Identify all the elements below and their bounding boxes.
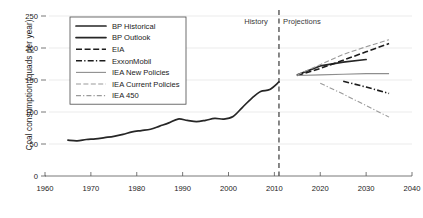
series-line-iea-new-policies: [297, 74, 389, 76]
y-tick-label: 250: [25, 12, 38, 21]
legend-label: EIA: [112, 45, 125, 54]
era-label: Projections: [283, 17, 321, 26]
x-tick-label: 1960: [37, 184, 54, 193]
series-line-exxonmobil: [343, 81, 389, 93]
x-tick-label: 2020: [312, 184, 329, 193]
legend-label: IEA 450: [112, 91, 139, 100]
y-tick-label: 100: [25, 108, 38, 117]
y-tick-label: 200: [25, 44, 38, 53]
plot-svg: 050100150200250 196019701980199020002010…: [0, 0, 423, 218]
y-tick-label: 150: [25, 76, 38, 85]
y-tick-label: 0: [34, 172, 38, 181]
era-annotations: HistoryProjections: [244, 17, 321, 26]
x-tick-label: 1980: [128, 184, 145, 193]
y-axis-ticks: 050100150200250: [25, 12, 46, 181]
legend-label: IEA New Policies: [112, 68, 170, 77]
legend-label: BP Outlook: [112, 33, 150, 42]
era-label: History: [244, 17, 268, 26]
legend-label: IEA Current Policies: [112, 80, 180, 89]
x-tick-label: 1970: [82, 184, 99, 193]
x-tick-label: 2030: [358, 184, 375, 193]
legend: BP HistoricalBP OutlookEIAExxonMobilIEA …: [70, 17, 186, 104]
x-axis-ticks: 196019701980199020002010202020302040: [37, 172, 421, 193]
legend-label: BP Historical: [112, 22, 156, 31]
x-tick-label: 1990: [174, 184, 191, 193]
coal-consumption-chart: Coal consumption (quads per year) 050100…: [0, 0, 423, 218]
x-tick-label: 2000: [220, 184, 237, 193]
x-tick-label: 2010: [266, 184, 283, 193]
legend-label: ExxonMobil: [112, 57, 152, 66]
y-tick-label: 50: [30, 140, 38, 149]
x-tick-label: 2040: [404, 184, 421, 193]
